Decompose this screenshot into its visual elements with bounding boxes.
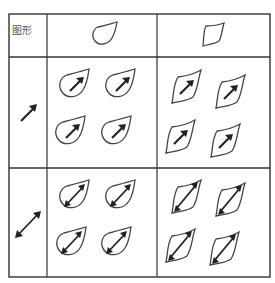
figure-table [9,14,270,277]
drop-shape-icon [93,22,117,44]
corner-label: 图形 [12,22,32,37]
single-arrow-icon [21,104,37,121]
grid-lines [0,0,275,283]
leaf-single-arrow-cell [166,70,245,157]
leaf-shape-icon [203,23,224,46]
drop-double-arrow-cell [57,180,135,255]
drop-single-arrow-cell [56,69,135,144]
double-arrow-icon [15,211,41,238]
leaf-double-arrow-cell [166,180,245,265]
